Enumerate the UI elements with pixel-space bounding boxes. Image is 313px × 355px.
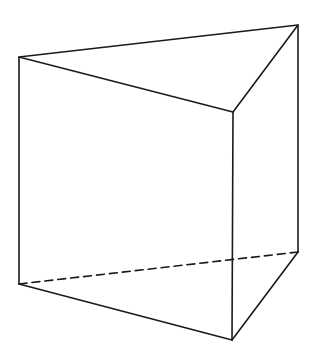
triangular-prism-diagram	[0, 0, 313, 355]
edge-c-c1	[232, 112, 233, 340]
edge-a1-c1	[19, 284, 232, 340]
hidden-edge-a1-b1	[19, 252, 298, 284]
top-face	[19, 25, 298, 112]
edge-c1-b1	[232, 252, 298, 340]
